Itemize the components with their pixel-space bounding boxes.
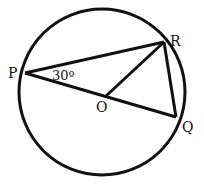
circle	[19, 9, 185, 175]
radius-or	[106, 42, 164, 96]
label-r: R	[170, 33, 181, 49]
chord-pr	[25, 42, 164, 73]
label-q: Q	[182, 119, 193, 135]
label-o: O	[96, 99, 107, 115]
angle-label: 30º	[52, 68, 75, 83]
geometry-figure: P R Q O 30º	[0, 0, 204, 185]
diagram-canvas: P R Q O 30º	[0, 0, 204, 185]
label-p: P	[8, 65, 17, 81]
